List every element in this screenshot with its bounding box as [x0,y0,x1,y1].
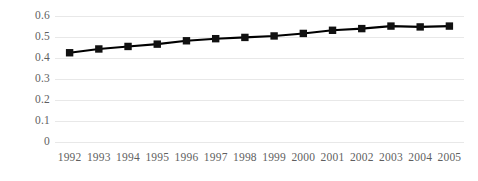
x-axis-tick-label: 2005 [437,152,461,164]
data-point-marker [416,23,423,30]
data-point-marker [300,30,307,37]
data-point-marker [183,37,190,44]
data-point-marker [358,25,365,32]
x-axis-tick-label: 1999 [262,152,286,164]
x-axis-tick-label: 1993 [87,152,111,164]
y-axis-tick-label: 0.4 [2,52,50,64]
x-axis-tick-label: 2004 [408,152,432,164]
data-point-marker [329,27,336,34]
y-axis-tick-label: 0 [2,136,50,148]
data-point-marker [212,35,219,42]
data-point-marker [387,22,394,29]
y-axis-tick-label: 0.3 [2,73,50,85]
data-point-marker [446,22,453,29]
x-axis-tick-label: 1995 [145,152,169,164]
data-point-marker [241,34,248,41]
x-axis-tick-label: 1998 [233,152,257,164]
y-axis-tick-label: 0.5 [2,31,50,43]
gridline [55,142,464,143]
data-point-marker [95,45,102,52]
x-axis-tick-labels: 1992199319941995199619971998199920002001… [55,152,464,172]
data-point-marker [66,49,73,56]
series-layer [55,16,464,142]
y-axis-tick-label: 0.2 [2,94,50,106]
data-point-marker [270,32,277,39]
x-axis-tick-label: 2003 [379,152,403,164]
y-axis-tick-labels: 00.10.20.30.40.50.6 [0,0,50,181]
plot-area [55,16,464,142]
x-axis-tick-label: 2001 [321,152,345,164]
x-axis-tick-label: 2000 [291,152,315,164]
y-axis-tick-label: 0.6 [2,10,50,22]
x-axis-tick-label: 1994 [116,152,140,164]
x-axis-tick-label: 1996 [175,152,199,164]
x-axis-tick-label: 1997 [204,152,228,164]
y-axis-tick-label: 0.1 [2,115,50,127]
data-point-marker [124,43,131,50]
x-axis-tick-label: 2002 [350,152,374,164]
x-axis-tick-label: 1992 [58,152,82,164]
data-point-marker [154,40,161,47]
line-chart: 00.10.20.30.40.50.6 19921993199419951996… [0,0,478,181]
